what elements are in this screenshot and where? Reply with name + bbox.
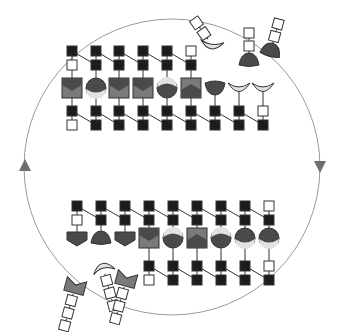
arrow-up-left-icon xyxy=(19,159,31,171)
white-block xyxy=(258,106,268,116)
black-block xyxy=(114,106,124,116)
dome-down-shape xyxy=(205,81,225,95)
black-block xyxy=(210,120,220,130)
dome-up-shape xyxy=(239,53,259,67)
white-block xyxy=(116,287,128,299)
black-block xyxy=(192,275,202,285)
black-block xyxy=(91,106,101,116)
black-block xyxy=(240,215,250,225)
square-chevron-shape xyxy=(62,78,82,98)
black-block xyxy=(162,120,172,130)
black-block xyxy=(186,120,196,130)
white-block xyxy=(264,201,274,211)
white-block xyxy=(144,275,154,285)
black-block xyxy=(120,215,130,225)
black-block xyxy=(264,275,274,285)
black-block xyxy=(72,201,82,211)
black-block xyxy=(120,201,130,211)
black-block xyxy=(234,120,244,130)
black-block xyxy=(96,215,106,225)
white-block xyxy=(272,18,284,30)
black-block xyxy=(91,46,101,56)
black-block xyxy=(144,215,154,225)
white-block xyxy=(264,261,274,271)
black-block xyxy=(264,215,274,225)
crescent-light-shape xyxy=(228,83,250,92)
black-block xyxy=(240,261,250,271)
crescent-light-shape xyxy=(252,83,274,92)
black-block xyxy=(114,46,124,56)
black-block xyxy=(186,106,196,116)
black-block xyxy=(192,201,202,211)
black-block xyxy=(168,261,178,271)
square-chevron-shape xyxy=(133,78,153,98)
pentagon-down-shape xyxy=(115,232,135,246)
black-block xyxy=(144,261,154,271)
black-block xyxy=(96,201,106,211)
black-block xyxy=(91,60,101,70)
black-block xyxy=(210,106,220,116)
black-block xyxy=(234,106,244,116)
white-block xyxy=(104,287,116,299)
square-mountain-shape xyxy=(187,228,207,248)
circle-lower-light-shape xyxy=(235,228,255,249)
circle-upper-light-shape xyxy=(211,227,231,248)
black-block xyxy=(67,46,77,56)
white-block xyxy=(65,294,77,306)
black-block xyxy=(114,120,124,130)
black-block xyxy=(186,60,196,70)
assembly-unit-parts xyxy=(115,201,135,246)
circle-upper-light-shape xyxy=(163,227,183,248)
black-block xyxy=(138,120,148,130)
black-block xyxy=(216,275,226,285)
black-block xyxy=(168,215,178,225)
black-block xyxy=(114,60,124,70)
free-piece xyxy=(54,277,87,332)
square-mountain-shape xyxy=(181,78,201,98)
black-block xyxy=(240,201,250,211)
white-block xyxy=(268,30,280,42)
black-block xyxy=(138,60,148,70)
white-block xyxy=(67,60,77,70)
circle-upper-light-shape xyxy=(157,77,177,98)
white-block xyxy=(62,307,74,319)
white-block xyxy=(110,313,122,325)
top-free-pieces xyxy=(189,12,289,66)
square-chevron-shape xyxy=(139,228,159,248)
black-block xyxy=(240,275,250,285)
white-block xyxy=(113,300,125,312)
bottom-free-pieces xyxy=(54,261,138,332)
black-block xyxy=(144,201,154,211)
black-block xyxy=(216,201,226,211)
black-block xyxy=(162,60,172,70)
assembly-unit-parts xyxy=(67,201,87,246)
assembly-unit-parts xyxy=(205,81,225,130)
assembly-unit-parts xyxy=(228,83,250,130)
white-block xyxy=(197,27,211,41)
white-block xyxy=(100,274,112,286)
dome-up-shape xyxy=(260,41,283,59)
black-block xyxy=(162,46,172,56)
circle-lower-light-shape xyxy=(86,78,106,99)
black-block xyxy=(91,120,101,130)
black-block xyxy=(258,120,268,130)
square-chevron-shape xyxy=(109,78,129,98)
black-block xyxy=(138,46,148,56)
black-block xyxy=(192,215,202,225)
bottom-assembly-row xyxy=(67,201,279,285)
white-block xyxy=(59,320,71,332)
dome-up-shape xyxy=(91,231,111,245)
white-block xyxy=(190,16,204,30)
assembly-unit-parts xyxy=(252,83,274,130)
assembly-unit-parts xyxy=(91,201,111,245)
black-block xyxy=(162,106,172,116)
white-block xyxy=(67,120,77,130)
diagram-canvas xyxy=(0,0,340,332)
free-piece xyxy=(239,28,259,67)
cycle-diagram xyxy=(0,0,340,332)
white-block xyxy=(186,46,196,56)
bowtie-mid-shape xyxy=(115,270,138,289)
white-block xyxy=(244,28,254,38)
black-block xyxy=(168,201,178,211)
white-block xyxy=(244,41,254,51)
